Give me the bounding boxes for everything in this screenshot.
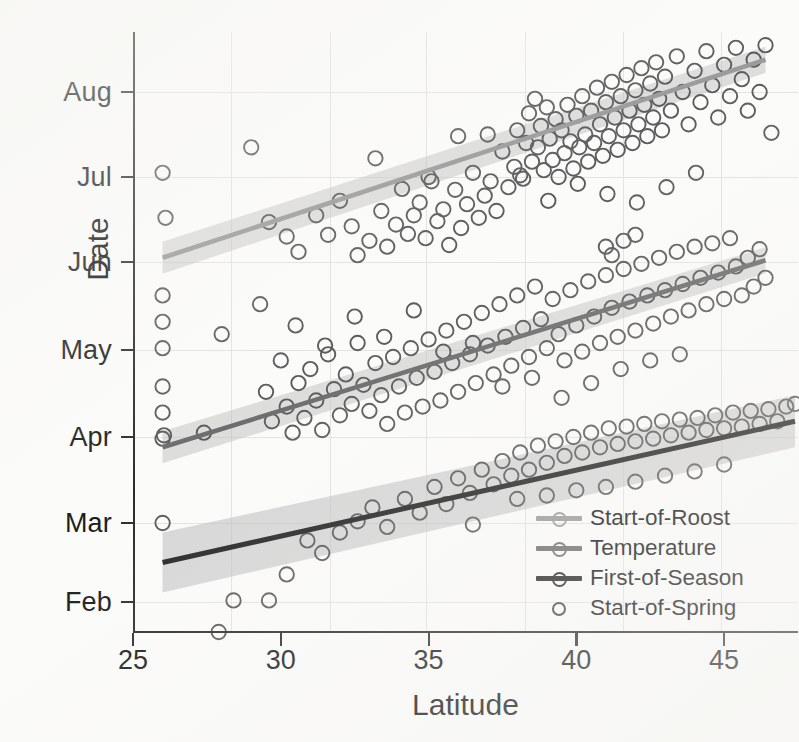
data-point bbox=[640, 129, 654, 143]
data-point bbox=[664, 309, 678, 323]
y-tick-label: Aug bbox=[63, 77, 112, 108]
data-point bbox=[483, 174, 497, 188]
data-point bbox=[670, 49, 684, 63]
y-tick-mark bbox=[121, 349, 134, 351]
data-point bbox=[593, 336, 607, 350]
data-point bbox=[451, 385, 465, 399]
x-tick-label: 45 bbox=[709, 645, 739, 676]
data-point bbox=[723, 231, 737, 245]
data-point bbox=[599, 268, 613, 282]
data-point bbox=[318, 338, 332, 352]
data-point bbox=[413, 195, 427, 209]
legend-item-1[interactable]: Start-of-Roost bbox=[536, 503, 786, 533]
data-point bbox=[699, 44, 713, 58]
data-point bbox=[602, 421, 616, 435]
data-point bbox=[155, 516, 169, 530]
y-tick-mark bbox=[121, 436, 134, 438]
legend-item-3[interactable]: First-of-Season bbox=[536, 563, 786, 593]
legend-marker-icon bbox=[536, 537, 582, 559]
data-point bbox=[303, 362, 317, 376]
data-point bbox=[155, 341, 169, 355]
data-point bbox=[630, 195, 644, 209]
data-point bbox=[244, 140, 258, 154]
data-point bbox=[689, 166, 703, 180]
data-point bbox=[729, 41, 743, 55]
data-point bbox=[350, 336, 364, 350]
legend-circle-icon bbox=[552, 572, 567, 587]
y-tick-mark bbox=[121, 522, 134, 524]
data-point bbox=[404, 341, 418, 355]
legend-circle-icon bbox=[552, 512, 567, 527]
data-point bbox=[348, 309, 362, 323]
data-point bbox=[652, 251, 666, 265]
data-point bbox=[551, 170, 565, 184]
y-tick-label: Apr bbox=[69, 422, 112, 453]
data-point bbox=[575, 89, 589, 103]
y-tick-label: Mar bbox=[65, 508, 112, 539]
data-point bbox=[758, 271, 772, 285]
data-point bbox=[528, 279, 542, 293]
legend-circle-icon bbox=[552, 602, 566, 616]
data-point bbox=[711, 110, 725, 124]
data-point bbox=[472, 211, 486, 225]
data-point bbox=[602, 129, 616, 143]
data-point bbox=[333, 408, 347, 422]
data-point bbox=[587, 136, 601, 150]
data-point bbox=[659, 180, 673, 194]
data-point bbox=[274, 353, 288, 367]
x-axis-title: Latitude bbox=[133, 688, 798, 722]
data-point bbox=[489, 204, 503, 218]
legend-label: Start-of-Spring bbox=[582, 595, 736, 621]
data-point bbox=[741, 104, 755, 118]
y-axis-line bbox=[133, 32, 135, 633]
data-point bbox=[321, 228, 335, 242]
y-tick-mark bbox=[121, 176, 134, 178]
legend-marker-icon bbox=[536, 507, 582, 529]
data-point bbox=[407, 303, 421, 317]
data-point bbox=[646, 110, 660, 124]
data-point bbox=[717, 292, 731, 306]
data-point bbox=[492, 297, 506, 311]
data-point bbox=[581, 274, 595, 288]
data-point bbox=[398, 405, 412, 419]
data-point bbox=[469, 376, 483, 390]
data-point bbox=[646, 316, 660, 330]
data-point bbox=[475, 306, 489, 320]
series-1 bbox=[155, 38, 778, 274]
data-point bbox=[291, 376, 305, 390]
data-point bbox=[368, 151, 382, 165]
data-point bbox=[758, 38, 772, 52]
data-point bbox=[226, 593, 240, 607]
data-point bbox=[262, 593, 276, 607]
data-point bbox=[259, 385, 273, 399]
data-point bbox=[380, 240, 394, 254]
data-point bbox=[557, 353, 571, 367]
data-point bbox=[285, 426, 299, 440]
y-tick-label: Feb bbox=[65, 587, 112, 618]
legend-item-4[interactable]: Start-of-Spring bbox=[536, 593, 786, 623]
y-tick-mark bbox=[121, 261, 134, 263]
data-point bbox=[451, 129, 465, 143]
data-point bbox=[522, 350, 536, 364]
data-point bbox=[362, 404, 376, 418]
y-tick-mark bbox=[121, 91, 134, 93]
data-point bbox=[611, 143, 625, 157]
data-point bbox=[155, 288, 169, 302]
data-point bbox=[415, 399, 429, 413]
chart-figure: AugJulJunMayAprMarFeb 2530354045 Date La… bbox=[0, 0, 799, 742]
data-point bbox=[288, 318, 302, 332]
y-axis-title: Date bbox=[81, 149, 115, 349]
data-point bbox=[628, 323, 642, 337]
data-point bbox=[155, 166, 169, 180]
legend-label: Start-of-Roost bbox=[582, 505, 730, 531]
data-point bbox=[752, 85, 766, 99]
data-point bbox=[634, 257, 648, 271]
legend-item-2[interactable]: Temperature bbox=[536, 533, 786, 563]
data-point bbox=[439, 323, 453, 337]
data-point bbox=[584, 426, 598, 440]
data-point bbox=[280, 567, 294, 581]
data-point bbox=[571, 177, 585, 191]
data-point bbox=[448, 183, 462, 197]
regression-line bbox=[163, 260, 766, 447]
data-point bbox=[541, 194, 555, 208]
